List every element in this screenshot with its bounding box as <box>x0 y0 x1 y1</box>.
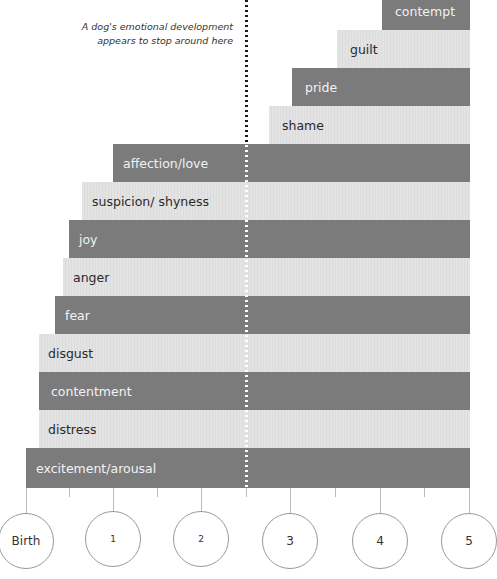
bar-label: distress <box>48 422 96 437</box>
axis-label-text: 4 <box>376 534 384 548</box>
chart-annotation: A dog's emotional development appears to… <box>82 20 233 48</box>
minor-tick <box>424 488 425 497</box>
axis-label-birth: Birth <box>0 513 54 569</box>
dotted-cutoff-line-lower <box>245 145 248 488</box>
axis-label-text: 5 <box>465 534 473 548</box>
minor-tick <box>157 488 158 497</box>
bar-label: contempt <box>395 4 455 19</box>
bar-affection-love: affection/love <box>113 144 470 182</box>
minor-tick <box>69 488 70 497</box>
bar-label: anger <box>73 270 109 285</box>
bar-distress: distress <box>39 410 470 448</box>
bar-contentment: contentment <box>39 372 470 410</box>
annotation-line-2: appears to stop around here <box>82 34 233 48</box>
bar-shame: shame <box>269 106 470 144</box>
bar-label: excitement/arousal <box>36 461 156 476</box>
axis-label-3: 3 <box>262 513 318 569</box>
axis-label-text: Birth <box>12 534 41 548</box>
bar-label: suspicion/ shyness <box>92 194 209 209</box>
bar-pride: pride <box>292 68 470 106</box>
axis-label-text: 3 <box>286 534 294 548</box>
dotted-cutoff-line-upper <box>245 0 248 145</box>
bar-fear: fear <box>55 296 470 334</box>
bar-label: fear <box>65 308 90 323</box>
bar-label: contentment <box>51 384 132 399</box>
axis-label-4: 4 <box>352 513 408 569</box>
annotation-line-1: A dog's emotional development <box>82 20 233 34</box>
axis-label-text: 1 <box>110 534 116 544</box>
bar-anger: anger <box>63 258 470 296</box>
bar-label: pride <box>305 80 337 95</box>
bar-joy: joy <box>69 220 470 258</box>
axis-label-text: 2 <box>198 534 204 544</box>
bar-guilt: guilt <box>337 30 470 68</box>
axis-label-5: 5 <box>441 513 497 569</box>
bar-label: shame <box>282 118 324 133</box>
bar-excitement-arousal: excitement/arousal <box>26 448 470 488</box>
minor-tick <box>335 488 336 497</box>
bar-label: affection/love <box>123 156 208 171</box>
axis-label-2: 2 <box>173 511 229 567</box>
axis-label-1: 1 <box>85 511 141 567</box>
bar-disgust: disgust <box>39 334 470 372</box>
bar-suspicion-shyness: suspicion/ shyness <box>82 182 470 220</box>
bar-contempt: contempt <box>382 0 470 30</box>
minor-tick <box>246 488 247 497</box>
bar-label: disgust <box>48 346 93 361</box>
bar-label: guilt <box>350 42 378 57</box>
bar-label: joy <box>79 232 98 247</box>
